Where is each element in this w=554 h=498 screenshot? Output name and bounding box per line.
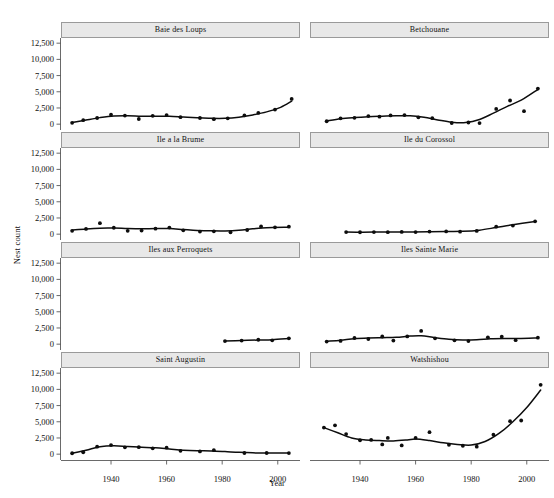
data-point xyxy=(339,339,343,343)
panel-canvas xyxy=(310,258,549,350)
y-tick-label: 5,000 xyxy=(0,87,54,97)
plot-panel xyxy=(61,148,300,240)
panel-canvas xyxy=(61,38,300,130)
data-point xyxy=(400,444,404,448)
y-tick-label: 10,000 xyxy=(0,274,54,284)
data-point xyxy=(539,383,543,387)
y-tick-label: 10,000 xyxy=(0,164,54,174)
data-point xyxy=(492,433,496,437)
fitted-trend-line xyxy=(324,390,541,445)
y-tick-label: 7,500 xyxy=(0,71,54,81)
data-point xyxy=(84,227,88,231)
data-point xyxy=(223,339,227,343)
data-point xyxy=(287,336,291,340)
data-point xyxy=(514,338,518,342)
data-point xyxy=(109,113,113,117)
data-point xyxy=(536,336,540,340)
panel-strip-label: Iles aux Perroquets xyxy=(61,242,300,258)
x-tick-label: 1980 xyxy=(214,474,231,484)
panel-canvas xyxy=(310,368,549,460)
y-tick-label: 10,000 xyxy=(0,54,54,64)
y-tick-label: 0 xyxy=(0,339,54,349)
data-point xyxy=(198,449,202,453)
data-point xyxy=(416,115,420,119)
fitted-trend-line xyxy=(327,336,538,342)
plot-panel xyxy=(61,258,300,350)
plot-panel xyxy=(310,258,549,350)
data-point xyxy=(165,446,169,450)
data-point xyxy=(95,116,99,120)
data-point xyxy=(428,430,432,434)
y-tick-label: 7,500 xyxy=(0,181,54,191)
x-tick-label: 2000 xyxy=(518,474,535,484)
data-point xyxy=(414,230,418,234)
y-tick-label: 12,500 xyxy=(0,38,54,48)
data-point xyxy=(256,111,260,115)
data-point xyxy=(256,338,260,342)
data-point xyxy=(287,451,291,455)
data-point xyxy=(522,109,526,113)
data-point xyxy=(151,114,155,118)
data-point xyxy=(325,119,329,123)
data-point xyxy=(198,230,202,234)
data-point xyxy=(243,114,247,118)
data-point xyxy=(389,114,393,118)
data-point xyxy=(95,445,99,449)
data-point xyxy=(259,225,263,229)
x-tick-label: 1960 xyxy=(158,474,175,484)
data-point xyxy=(378,115,382,119)
data-point xyxy=(430,116,434,120)
data-point xyxy=(494,225,498,229)
data-point xyxy=(533,219,537,223)
data-point xyxy=(325,340,329,344)
data-point xyxy=(333,423,337,427)
data-point xyxy=(428,230,432,234)
data-point xyxy=(433,336,437,340)
data-point xyxy=(450,121,454,125)
data-point xyxy=(494,107,498,111)
data-point xyxy=(511,224,515,228)
data-point xyxy=(405,334,409,338)
data-point xyxy=(419,329,423,333)
y-tick-label: 2,500 xyxy=(0,103,54,113)
data-point xyxy=(369,438,373,442)
fitted-trend-line xyxy=(72,227,289,231)
nest-count-trellis-figure: Nest count Year 00002,5002,5002,5002,500… xyxy=(0,0,554,498)
data-point xyxy=(372,230,376,234)
data-point xyxy=(265,451,269,455)
data-point xyxy=(358,438,362,442)
y-tick-label: 7,500 xyxy=(0,291,54,301)
data-point xyxy=(536,87,540,91)
data-point xyxy=(344,432,348,436)
data-point xyxy=(212,117,216,121)
data-point xyxy=(339,116,343,120)
data-point xyxy=(240,339,244,343)
x-tick-label: 1940 xyxy=(103,474,120,484)
x-tick-label: 1980 xyxy=(463,474,480,484)
data-point xyxy=(467,339,471,343)
data-point xyxy=(475,445,479,449)
y-tick-label: 0 xyxy=(0,229,54,239)
data-point xyxy=(453,338,457,342)
data-point xyxy=(358,230,362,234)
data-point xyxy=(366,337,370,341)
data-point xyxy=(212,448,216,452)
data-point xyxy=(508,99,512,103)
x-tick-label: 2000 xyxy=(269,474,286,484)
data-point xyxy=(212,229,216,233)
panel-strip-label: Ile a la Brume xyxy=(61,132,300,148)
data-point xyxy=(70,229,74,233)
data-point xyxy=(245,228,249,232)
panel-canvas xyxy=(310,38,549,130)
data-point xyxy=(486,335,490,339)
plot-panel xyxy=(61,368,300,460)
data-point xyxy=(519,419,523,423)
data-point xyxy=(508,419,512,423)
data-point xyxy=(179,449,183,453)
y-tick-label: 2,500 xyxy=(0,323,54,333)
data-point xyxy=(380,443,384,447)
y-tick-label: 10,000 xyxy=(0,384,54,394)
panel-canvas xyxy=(61,368,300,460)
panel-canvas xyxy=(61,258,300,350)
y-tick-label: 12,500 xyxy=(0,148,54,158)
